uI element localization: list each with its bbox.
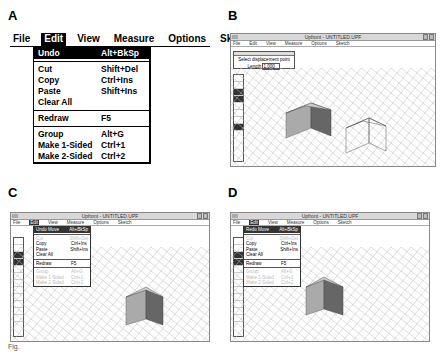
- menu-options[interactable]: Options: [313, 220, 329, 225]
- menu-separator: [34, 126, 149, 127]
- menu-edit[interactable]: Edit: [41, 33, 66, 46]
- menu-edit[interactable]: Edit: [29, 220, 39, 225]
- figure-caption: Fig.: [8, 343, 20, 350]
- menu-item-make-2-sided[interactable]: Make 2-SidedCtrl+2: [34, 280, 90, 286]
- menu-measure[interactable]: Measure: [285, 41, 303, 46]
- menu-measure[interactable]: Measure: [67, 220, 85, 225]
- menu-item-copy[interactable]: CopyCtrl+Ins: [34, 75, 149, 86]
- menu-item-clear-all[interactable]: Clear All: [34, 97, 149, 108]
- system-menu-icon[interactable]: [12, 214, 18, 218]
- edit-menu-dropdown: Undo MoveAlt+BkSpCutShift+DelCopyCtrl+In…: [33, 226, 91, 287]
- menu-item-label: Make 2-Sided: [36, 280, 71, 286]
- menu-item-label: Clear All: [38, 97, 101, 108]
- minimize-button[interactable]: [197, 213, 202, 219]
- menu-item-label: Clear All: [246, 252, 281, 258]
- edit-menu-dropdown: Redo MoveAlt+BkSpCutShift+DelCopyCtrl+In…: [243, 226, 301, 287]
- panel-b-window: Upfront - UNTITLED.UPF FileEditViewMeasu…: [230, 33, 436, 167]
- menu-separator: [34, 110, 149, 111]
- menu-file[interactable]: File: [233, 41, 240, 46]
- menu-edit[interactable]: Edit: [249, 220, 259, 225]
- menu-item-clear-all[interactable]: Clear All: [34, 252, 90, 258]
- menu-item-cut[interactable]: CutShift+Del: [34, 64, 149, 75]
- menu-separator: [244, 234, 300, 235]
- menu-item-label: Redraw: [36, 261, 71, 267]
- menu-separator: [34, 61, 149, 62]
- menu-separator: [34, 234, 90, 235]
- menu-sketch[interactable]: Sketch: [338, 220, 352, 225]
- panel-a-label: A: [8, 8, 17, 23]
- menu-item-label: Cut: [38, 64, 101, 75]
- menu-item-shortcut: Ctrl+Ins: [101, 75, 133, 86]
- minimize-button[interactable]: [417, 213, 422, 219]
- menu-item-shortcut: Shift+Del: [101, 64, 138, 75]
- menu-item-shortcut: Shift+Ins: [280, 247, 298, 253]
- menu-item-paste[interactable]: PasteShift+Ins: [34, 86, 149, 97]
- menu-item-make-2-sided[interactable]: Make 2-SidedCtrl+2: [244, 280, 300, 286]
- maximize-button[interactable]: [203, 213, 208, 219]
- menu-separator: [34, 267, 90, 268]
- menu-item-label: Make 2-Sided: [246, 280, 281, 286]
- minimize-button[interactable]: [423, 34, 428, 40]
- menu-item-redo-move[interactable]: Redo MoveAlt+BkSp: [244, 227, 300, 233]
- menu-item-label: Clear All: [36, 252, 71, 258]
- menu-item-shortcut: F5: [71, 261, 76, 267]
- menu-item-make-2-sided[interactable]: Make 2-SidedCtrl+2: [34, 151, 149, 162]
- maximize-button[interactable]: [423, 213, 428, 219]
- menu-view[interactable]: View: [266, 41, 276, 46]
- menu-item-shortcut: F5: [101, 113, 111, 124]
- menu-item-undo-move[interactable]: Undo MoveAlt+BkSp: [34, 227, 90, 233]
- menu-item-group[interactable]: GroupAlt+G: [34, 129, 149, 140]
- panel-c-window: Upfront - UNTITLED.UPF FileEditViewMeasu…: [10, 212, 210, 342]
- 3d-viewport[interactable]: [231, 48, 436, 167]
- window-title: Upfront - UNTITLED.UPF: [305, 34, 362, 40]
- menu-item-undo[interactable]: UndoAlt+BkSp: [34, 48, 149, 59]
- menu-item-label: Copy: [38, 75, 101, 86]
- title-bar: Upfront - UNTITLED.UPF: [231, 34, 435, 41]
- menu-options[interactable]: Options: [165, 33, 209, 46]
- menu-view[interactable]: View: [74, 33, 103, 46]
- menu-item-label: Make 2-Sided: [38, 151, 101, 162]
- menubar: FileEditViewMeasureOptionsSketch: [231, 41, 435, 47]
- menu-edit[interactable]: Edit: [249, 41, 257, 46]
- menu-item-label: Group: [38, 129, 101, 140]
- maximize-button[interactable]: [429, 34, 434, 40]
- panel-a-edit-menu: UndoAlt+BkSpCutShift+DelCopyCtrl+InsPast…: [33, 47, 151, 164]
- menu-item-label: Make 1-Sided: [38, 140, 101, 151]
- panel-d-window: Upfront - UNTITLED.UPF FileEditViewMeasu…: [230, 212, 430, 342]
- menu-sketch[interactable]: Sketch: [118, 220, 132, 225]
- menu-item-clear-all[interactable]: Clear All: [244, 252, 300, 258]
- menu-separator: [244, 267, 300, 268]
- panel-a-menubar: FileEditViewMeasureOptionsSketch: [10, 33, 210, 47]
- panel-d-label: D: [228, 185, 237, 200]
- menu-measure[interactable]: Measure: [287, 220, 305, 225]
- menu-item-shortcut: Shift+Ins: [101, 86, 137, 97]
- menu-item-label: Redo Move: [246, 227, 279, 233]
- menu-item-shortcut: Ctrl+2: [281, 280, 293, 286]
- menu-item-make-1-sided[interactable]: Make 1-SidedCtrl+1: [34, 140, 149, 151]
- menu-view[interactable]: View: [268, 220, 278, 225]
- menu-file[interactable]: File: [10, 33, 33, 46]
- menu-item-shortcut: Ctrl+2: [71, 280, 83, 286]
- menu-view[interactable]: View: [48, 220, 58, 225]
- menu-separator: [244, 259, 300, 260]
- menu-item-redraw[interactable]: RedrawF5: [244, 261, 300, 267]
- panel-c-label: C: [8, 185, 17, 200]
- system-menu-icon[interactable]: [232, 214, 238, 218]
- menu-options[interactable]: Options: [93, 220, 109, 225]
- menu-options[interactable]: Options: [311, 41, 327, 46]
- menu-separator: [34, 259, 90, 260]
- menu-item-shortcut: Alt+BkSp: [101, 48, 139, 59]
- menu-item-redraw[interactable]: RedrawF5: [34, 261, 90, 267]
- menu-item-label: Undo Move: [36, 227, 69, 233]
- menu-item-shortcut: Alt+G: [101, 129, 124, 140]
- menu-item-label: Undo: [38, 48, 101, 59]
- menu-file[interactable]: File: [233, 220, 240, 225]
- menu-file[interactable]: File: [13, 220, 20, 225]
- menu-sketch[interactable]: Sketch: [336, 41, 350, 46]
- menu-item-label: Redraw: [246, 261, 281, 267]
- system-menu-icon[interactable]: [232, 35, 238, 39]
- menu-measure[interactable]: Measure: [111, 33, 158, 46]
- menu-item-redraw[interactable]: RedrawF5: [34, 113, 149, 124]
- menu-item-shortcut: Alt+BkSp: [69, 227, 88, 233]
- menu-item-shortcut: Ctrl+2: [101, 151, 125, 162]
